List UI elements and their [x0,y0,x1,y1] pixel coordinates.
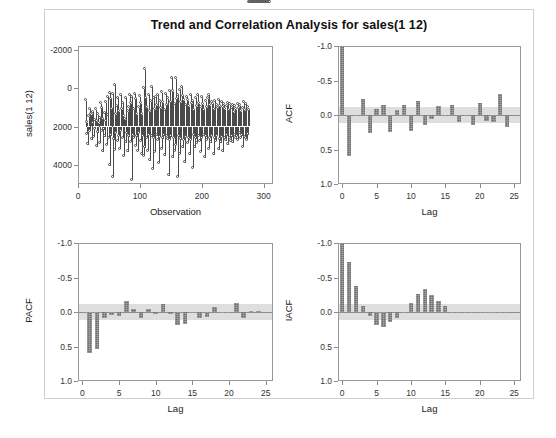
series-marker [118,147,121,150]
xtick-mark-acf [411,184,412,188]
xtick-label-pacf: 5 [99,388,139,398]
ytick-label-acf: 0.5 [290,145,332,155]
bar-iacf-lag-8 [395,312,399,318]
bar-acf-lag-16 [450,105,454,115]
bar-acf-lag-11 [416,101,420,115]
bar-pacf-lag-9 [146,309,151,312]
bar-acf-lag-22 [491,115,495,122]
ytick-label-iacf: 0.0 [290,307,332,317]
xtick-mark-pacf [119,381,120,385]
series-marker [119,93,122,96]
series-marker [202,108,205,111]
ytick-label-pacf: -0.5 [30,273,72,283]
series-marker [157,161,160,164]
needle-point [189,107,190,127]
series-marker [111,175,114,178]
bar-pacf-lag-6 [124,301,129,312]
axis-label-x-acf: Lag [338,206,521,217]
needle-point [126,98,127,126]
series-marker [134,97,137,100]
xtick-mark-pacf [82,381,83,385]
needle-point [137,115,138,127]
series-marker [239,136,242,139]
series-marker [199,150,202,153]
bar-iacf-lag-10 [409,303,413,312]
bar-pacf-lag-8 [139,312,144,318]
ytick-mark-acf [334,184,338,185]
bar-pacf-lag-14 [183,312,188,324]
series-marker [113,83,116,86]
needle-point [241,112,242,127]
needle-point [119,112,120,127]
series-marker [144,96,147,99]
ytick-label-iacf: 1.0 [290,376,332,386]
series-marker [109,97,112,100]
bar-iacf-lag-12 [423,289,427,312]
bar-pacf-lag-16 [197,312,202,318]
series-marker [116,139,119,142]
xtick-mark-acf [480,184,481,188]
xtick-mark-series [140,184,141,188]
series-marker [194,96,197,99]
bar-pacf-lag-11 [161,304,166,312]
bar-iacf-lag-24 [505,312,509,313]
bar-iacf-lag-14 [436,301,440,312]
bar-pacf-lag-24 [256,311,261,312]
needle-point [210,106,211,127]
ytick-mark-pacf [74,381,78,382]
series-marker [134,144,137,147]
bar-iacf-lag-18 [464,312,468,313]
series-marker [121,101,124,104]
series-marker [168,89,171,92]
xtick-mark-pacf [156,381,157,385]
series-marker [160,147,163,150]
series-marker [176,175,179,178]
needle-point [236,110,237,127]
series-marker [136,149,139,152]
ytick-label-pacf: 0.0 [30,307,72,317]
bar-pacf-lag-18 [212,307,217,312]
series-marker [95,144,98,147]
ytick-mark-acf [334,81,338,82]
bar-acf-lag-14 [436,106,440,115]
series-marker [164,92,167,95]
ytick-mark-iacf [334,278,338,279]
bar-pacf-lag-21 [234,303,239,312]
bar-acf-lag-21 [484,115,488,121]
xtick-label-acf: 25 [494,191,534,201]
xtick-mark-series [202,184,203,188]
bar-pacf-lag-12 [168,312,173,314]
series-marker [92,135,95,138]
bar-acf-lag-12 [423,115,427,125]
bar-pacf-lag-17 [205,312,210,317]
needle-point [150,127,151,161]
bar-acf-lag-17 [457,115,461,122]
axis-label-x-iacf: Lag [338,403,521,414]
xtick-mark-acf [445,184,446,188]
xtick-mark-acf [377,184,378,188]
needle-point [173,92,174,127]
series-marker [124,96,127,99]
bar-pacf-lag-1 [87,312,92,353]
ytick-mark-series [74,127,78,128]
xtick-label-pacf: 25 [246,388,286,398]
ytick-mark-acf [334,150,338,151]
axis-label-x-series: Observation [78,206,273,217]
bar-iacf-lag-7 [388,312,392,322]
bar-iacf-lag-9 [402,312,406,313]
series-marker [108,91,111,94]
bar-iacf-lag-23 [498,312,502,313]
bar-acf-lag-20 [478,103,482,115]
xtick-mark-pacf [266,381,267,385]
bar-acf-lag-8 [395,110,399,115]
series-marker [98,141,101,144]
bar-iacf-lag-1 [347,262,351,312]
bar-pacf-lag-20 [227,312,232,313]
bar-acf-lag-1 [347,115,351,156]
ytick-label-acf: -1.0 [290,41,332,51]
bar-iacf-lag-0 [340,243,344,312]
bar-acf-lag-18 [464,115,468,116]
series-marker [203,155,206,158]
xtick-mark-iacf [445,381,446,385]
bar-iacf-lag-5 [374,312,378,325]
